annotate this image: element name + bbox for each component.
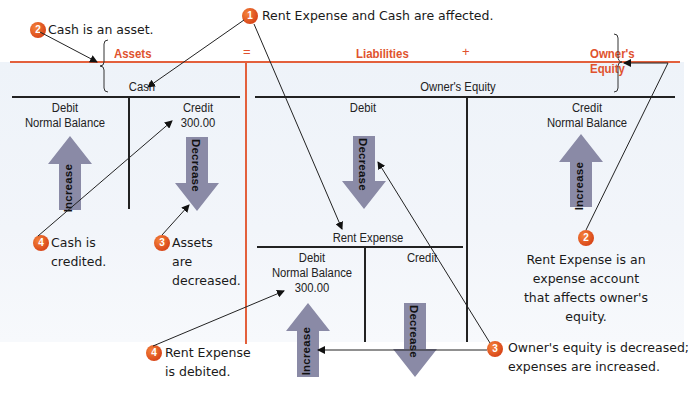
- callout-line: is debited.: [165, 362, 251, 381]
- rent-expense-t-stem: [364, 247, 366, 342]
- rent-expense-decrease-label: Decrease: [408, 305, 420, 358]
- rent-expense-t-top: [257, 246, 463, 248]
- callout-line: equity.: [506, 307, 666, 326]
- cash-increase-arrow-icon: Increase: [48, 136, 92, 210]
- cash-decrease-label: Decrease: [190, 139, 202, 192]
- callout-line: are: [172, 252, 241, 271]
- step-badge-2-cash: 2: [30, 22, 46, 38]
- cash-debit-normal-balance: Normal Balance: [16, 116, 115, 131]
- owners-equity-increase-arrow-icon: Increase: [559, 134, 603, 207]
- step-badge-1: 1: [242, 8, 258, 24]
- owners-equity-credit-normal-balance: Normal Balance: [538, 116, 637, 131]
- step-badge-2-rent-expense: 2: [578, 230, 594, 246]
- cash-decrease-arrow-icon: Decrease: [175, 137, 219, 211]
- rent-expense-debit-amount: 300.00: [267, 281, 357, 296]
- cash-account-title: Cash: [115, 80, 169, 95]
- callout-2-rent-expense-text: Rent Expense is an expense account that …: [506, 250, 666, 326]
- callout-4-rent-expense-text: Rent Expense is debited.: [165, 343, 251, 381]
- step-badge-3-assets: 3: [154, 235, 170, 251]
- owners-equity-credit-label: Credit: [538, 101, 637, 116]
- callout-line: Owner's equity is decreased;: [508, 338, 689, 357]
- step-badge-4-rent-expense: 4: [146, 345, 162, 361]
- equation-liabilities: Liabilities: [356, 46, 409, 61]
- owners-equity-decrease-arrow-icon: Decrease: [342, 136, 386, 209]
- cash-t-stem: [128, 97, 130, 209]
- callout-line: expenses are increased.: [508, 357, 689, 376]
- rent-expense-debit-normal-balance: Normal Balance: [267, 266, 357, 281]
- equation-equals: =: [243, 44, 251, 59]
- cash-t-top: [12, 96, 240, 98]
- callout-3-assets-text: Assets are decreased.: [172, 233, 241, 290]
- callout-1-text: Rent Expense and Cash are affected.: [262, 6, 493, 25]
- cash-credit-header: Credit 300.00: [164, 101, 232, 131]
- cash-credit-amount: 300.00: [164, 116, 232, 131]
- cash-debit-label: Debit: [16, 101, 115, 116]
- callout-line: credited.: [51, 252, 106, 271]
- callout-2-cash-text: Cash is an asset.: [48, 20, 154, 39]
- callout-line: that affects owner's: [506, 288, 666, 307]
- owners-equity-increase-label: Increase: [573, 162, 585, 210]
- cash-increase-label: Increase: [62, 164, 74, 212]
- rent-expense-debit-label: Debit: [267, 251, 357, 266]
- callout-4-cash-text: Cash is credited.: [51, 233, 106, 271]
- callout-line: Rent Expense is an: [506, 250, 666, 269]
- callout-line: decreased.: [172, 271, 241, 290]
- callout-line: expense account: [506, 269, 666, 288]
- equation-assets: Assets: [114, 46, 152, 61]
- callout-line: Assets: [172, 233, 241, 252]
- rent-expense-increase-arrow-icon: Increase: [286, 303, 330, 377]
- owners-equity-account-title: Owner's Equity: [404, 80, 512, 95]
- rent-expense-debit-header: Debit Normal Balance 300.00: [267, 251, 357, 296]
- owners-equity-decrease-label: Decrease: [357, 138, 369, 191]
- rent-expense-credit-label: Credit: [395, 251, 449, 266]
- cash-credit-label: Credit: [164, 101, 232, 116]
- owners-equity-t-top: [255, 96, 675, 98]
- callout-3-owners-equity-text: Owner's equity is decreased; expenses ar…: [508, 338, 689, 376]
- owners-equity-credit-header: Credit Normal Balance: [538, 101, 637, 131]
- callout-line: Cash is: [51, 233, 106, 252]
- equation-divider-line: [10, 61, 680, 63]
- rent-expense-decrease-arrow-icon: Decrease: [393, 303, 437, 377]
- owners-equity-debit-label: Debit: [332, 101, 395, 116]
- rent-expense-increase-label: Increase: [300, 327, 312, 375]
- rent-expense-account-title: Rent Expense: [323, 231, 413, 246]
- owners-equity-t-stem: [466, 97, 468, 342]
- step-badge-3-owners-equity: 3: [487, 341, 503, 357]
- step-badge-4-cash: 4: [33, 235, 49, 251]
- equation-plus: +: [462, 44, 470, 59]
- cash-debit-header: Debit Normal Balance: [16, 101, 115, 131]
- callout-line: Rent Expense: [165, 343, 251, 362]
- assets-divider-line: [245, 62, 247, 344]
